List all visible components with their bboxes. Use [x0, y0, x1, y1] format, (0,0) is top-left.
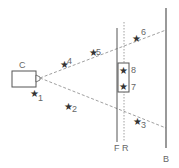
- point-label: 7: [131, 82, 136, 92]
- point-label: 2: [72, 104, 77, 114]
- star-icon: ★: [132, 33, 141, 44]
- camera-label: C: [19, 60, 26, 70]
- star-icon: ★: [119, 65, 128, 76]
- point-2: ★ 2: [64, 101, 77, 114]
- camera-diagram: C F R B ★ 1 ★ 2 ★ 3 ★ 4 ★ 5 ★ 6 ★ 8 ★ 7: [0, 0, 179, 168]
- point-label: 5: [96, 47, 101, 57]
- camera-body: [12, 71, 36, 87]
- point-label: 3: [141, 120, 146, 130]
- point-8: ★ 8: [119, 65, 136, 76]
- point-label: 6: [141, 27, 146, 37]
- point-3: ★ 3: [133, 116, 146, 130]
- point-5: ★ 5: [89, 47, 101, 58]
- back-plane-label: B: [163, 154, 169, 164]
- rear-plane-label: R: [122, 143, 129, 153]
- point-6: ★ 6: [132, 27, 146, 44]
- point-4: ★ 4: [60, 56, 72, 70]
- camera-lens: [36, 75, 40, 82]
- point-7: ★ 7: [119, 81, 136, 92]
- point-label: 4: [67, 56, 72, 66]
- upper-ray: [40, 30, 166, 78]
- point-label: 8: [131, 65, 136, 75]
- point-1: ★ 1: [30, 88, 43, 103]
- front-plane-label: F: [114, 143, 120, 153]
- lower-ray: [40, 78, 166, 128]
- point-label: 1: [38, 93, 43, 103]
- star-icon: ★: [119, 81, 128, 92]
